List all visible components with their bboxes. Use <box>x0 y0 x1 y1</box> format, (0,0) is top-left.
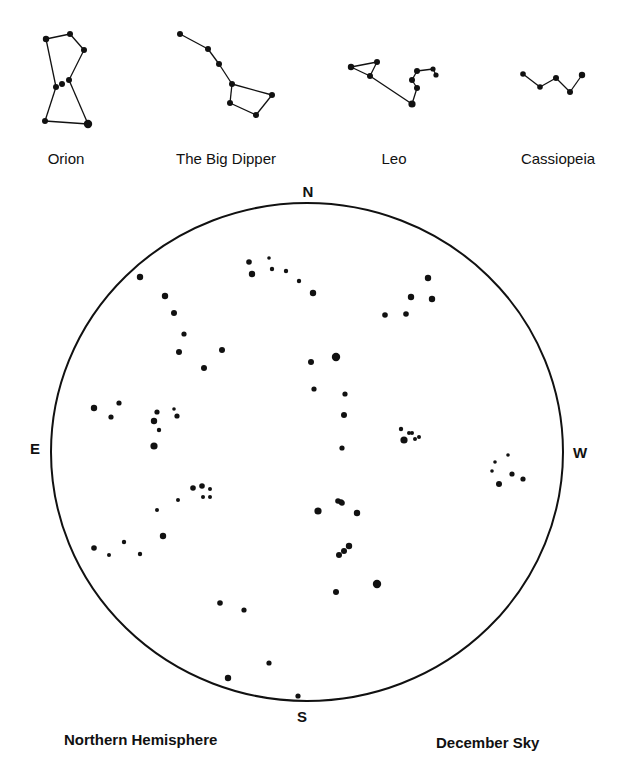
star-icon <box>151 418 157 424</box>
star-icon <box>414 68 420 74</box>
star-icon <box>176 349 182 355</box>
star-icon <box>177 31 183 37</box>
star-icon <box>354 510 360 516</box>
star-icon <box>367 73 373 79</box>
star-icon <box>208 487 212 491</box>
star-icon <box>493 460 497 464</box>
star-icon <box>91 545 97 551</box>
star-icon <box>176 498 180 502</box>
star-icon <box>201 495 205 499</box>
star-icon <box>346 543 352 549</box>
star-icon <box>269 92 275 98</box>
star-icon <box>157 428 161 432</box>
star-icon <box>190 485 196 491</box>
star-icon <box>162 293 168 299</box>
star-icon <box>506 453 510 457</box>
star-icon <box>414 85 420 91</box>
star-icon <box>408 294 414 300</box>
star-icon <box>553 75 559 81</box>
star-icon <box>253 112 259 118</box>
star-icon <box>308 359 314 365</box>
star-icon <box>332 353 340 361</box>
constellation-line <box>69 50 84 80</box>
constellation-line <box>351 62 377 67</box>
star-icon <box>81 47 87 53</box>
star-icon <box>155 508 159 512</box>
star-icon <box>520 71 526 77</box>
star-icon <box>172 407 176 411</box>
constellation-line <box>523 74 540 87</box>
star-icon <box>520 476 525 481</box>
star-icon <box>84 120 92 128</box>
star-icon <box>373 580 381 588</box>
star-icon <box>336 552 342 558</box>
constellation-label-cassiopeia: Cassiopeia <box>521 150 595 167</box>
star-icon <box>382 312 388 318</box>
star-icon <box>409 77 415 83</box>
star-chart-figure: Orion The Big Dipper Leo Cassiopeia N S … <box>0 0 624 781</box>
star-icon <box>246 259 252 265</box>
constellation-line <box>45 121 88 124</box>
constellation-the-big-dipper <box>177 31 275 118</box>
star-icon <box>116 400 121 405</box>
star-icon <box>490 469 494 473</box>
star-icon <box>174 413 179 418</box>
star-chart-artwork <box>0 0 624 781</box>
constellation-line <box>45 87 56 121</box>
constellation-line <box>230 103 256 115</box>
star-icon <box>333 589 339 595</box>
star-icon <box>270 267 274 271</box>
constellation-leo <box>348 59 439 108</box>
star-icon <box>408 100 415 107</box>
star-icon <box>67 31 73 37</box>
compass-south-label: S <box>297 708 307 725</box>
star-icon <box>150 442 157 449</box>
sky-star-field <box>91 256 526 698</box>
star-icon <box>137 274 143 280</box>
star-icon <box>53 84 59 90</box>
star-icon <box>567 89 573 95</box>
constellation-key <box>42 31 585 128</box>
constellation-line <box>219 64 232 84</box>
constellation-line <box>256 95 272 115</box>
star-icon <box>249 271 255 277</box>
constellation-label-leo: Leo <box>381 150 406 167</box>
constellation-line <box>70 34 84 50</box>
star-icon <box>417 435 421 439</box>
star-icon <box>227 100 233 106</box>
star-icon <box>339 445 344 450</box>
star-icon <box>138 552 142 556</box>
star-icon <box>208 495 212 499</box>
star-icon <box>181 331 186 336</box>
constellation-line <box>69 80 88 124</box>
star-icon <box>341 412 347 418</box>
star-icon <box>91 405 97 411</box>
star-icon <box>425 275 431 281</box>
star-icon <box>42 118 48 124</box>
star-icon <box>400 436 407 443</box>
star-icon <box>311 386 316 391</box>
compass-west-label: W <box>573 444 587 461</box>
star-icon <box>205 46 211 52</box>
compass-east-label: E <box>30 440 40 457</box>
star-icon <box>267 256 271 260</box>
star-icon <box>342 391 347 396</box>
star-icon <box>413 437 417 441</box>
star-icon <box>66 77 72 83</box>
star-icon <box>430 66 435 71</box>
constellation-line <box>46 34 70 39</box>
star-icon <box>107 553 111 557</box>
constellation-line <box>180 34 208 49</box>
star-icon <box>537 84 543 90</box>
star-icon <box>433 72 438 77</box>
star-icon <box>201 365 207 371</box>
sky-boundary-circle <box>51 203 563 701</box>
star-icon <box>108 414 113 419</box>
star-icon <box>217 600 223 606</box>
star-icon <box>284 269 288 273</box>
constellation-line <box>46 39 56 87</box>
star-icon <box>374 59 380 65</box>
hemisphere-caption: Northern Hemisphere <box>64 731 217 748</box>
constellation-orion <box>42 31 92 128</box>
star-icon <box>171 310 177 316</box>
